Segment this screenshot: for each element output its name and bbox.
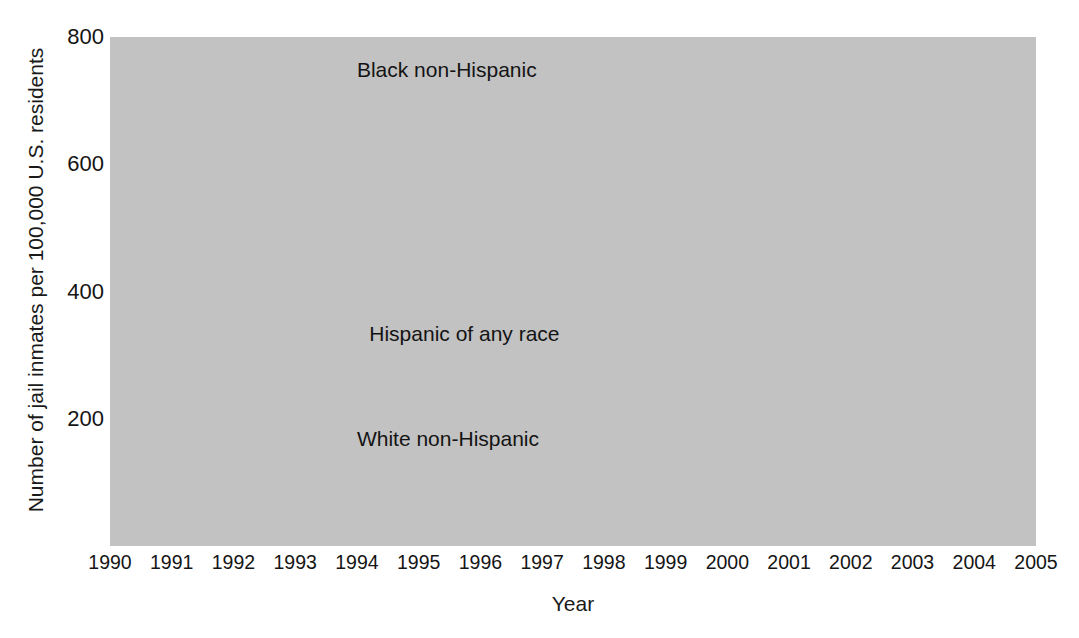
y-tick-600: 600 (0, 151, 104, 177)
x-tick-1993: 1993 (273, 551, 316, 574)
x-tick-2001: 2001 (767, 551, 810, 574)
x-tick-1990: 1990 (88, 551, 131, 574)
x-tick-1991: 1991 (150, 551, 193, 574)
y-tick-200: 200 (0, 406, 104, 432)
x-tick-2002: 2002 (829, 551, 872, 574)
series-label-hispanic-of-any-race: Hispanic of any race (369, 322, 559, 346)
x-tick-2005: 2005 (1014, 551, 1057, 574)
x-tick-1996: 1996 (459, 551, 502, 574)
series-label-white-non-hispanic: White non-Hispanic (357, 427, 539, 451)
x-tick-1998: 1998 (582, 551, 625, 574)
x-tick-2004: 2004 (953, 551, 996, 574)
x-tick-2003: 2003 (891, 551, 934, 574)
x-tick-1997: 1997 (520, 551, 563, 574)
x-tick-1995: 1995 (397, 551, 440, 574)
plot-area (110, 37, 1036, 546)
x-axis-title: Year (110, 592, 1036, 616)
y-tick-800: 800 (0, 24, 104, 50)
x-tick-2000: 2000 (706, 551, 749, 574)
y-tick-400: 400 (0, 279, 104, 305)
plot-wrapper: Black non-HispanicHispanic of any raceWh… (110, 37, 1036, 546)
x-tick-1992: 1992 (212, 551, 255, 574)
x-tick-1999: 1999 (644, 551, 687, 574)
series-label-black-non-hispanic: Black non-Hispanic (357, 58, 537, 82)
jail-inmates-rate-line-chart: Number of jail inmates per 100,000 U.S. … (0, 0, 1079, 638)
x-tick-1994: 1994 (335, 551, 378, 574)
